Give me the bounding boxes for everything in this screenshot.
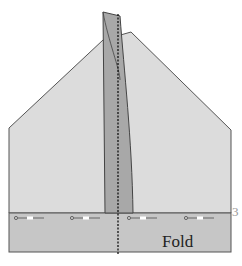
fold-diagram [0,0,242,266]
step-number: 3 [232,204,239,220]
fold-label: Fold [162,232,193,252]
